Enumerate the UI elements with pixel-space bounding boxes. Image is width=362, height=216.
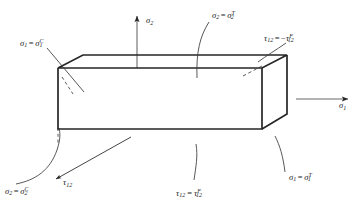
sigma2t-equals: = <box>221 10 226 20</box>
sigma1c-lhs-sub: 1 <box>24 42 27 48</box>
tau12-plain-sub: 12 <box>66 182 72 188</box>
sigma2c-equals: = <box>14 186 19 196</box>
tau12p-lhs-sub: 12 <box>179 192 185 198</box>
sigma-2-subscript: 2 <box>150 20 153 26</box>
sigma1t-rhs-sub: 1 <box>308 176 311 182</box>
sigma2t-rhs-sub: 2 <box>231 14 234 20</box>
axis-group <box>137 16 348 99</box>
sigma2c-rhs-sub: 2 <box>25 190 28 196</box>
prism-front-face <box>58 68 262 129</box>
leader-lines <box>16 22 286 184</box>
sigma1t-equals: = <box>298 172 303 182</box>
sigma-1-axis-label: σ1 <box>339 101 346 111</box>
sigma1c-equals: = <box>29 38 34 48</box>
sigma-1-subscript: 1 <box>343 105 346 111</box>
prism-outline <box>58 55 287 129</box>
tau12p-equals: = <box>187 188 192 198</box>
label-tau12-positive: τ12=τF12 <box>176 188 202 198</box>
tau12n-rhs-sub: 12 <box>288 37 294 43</box>
sigma-2-axis-label: σ2 <box>146 16 153 26</box>
prism-hidden-edges <box>58 66 262 143</box>
label-sigma2-tensile: σ2=σT2 <box>212 10 234 20</box>
tau12p-rhs-sub: 12 <box>196 192 202 198</box>
label-sigma1-tensile: σ1=σT1 <box>289 172 311 182</box>
figure-canvas <box>0 0 362 216</box>
leader-tau12-negative <box>258 43 286 62</box>
label-sigma1-compressive: σ1=σC1 <box>20 38 43 48</box>
leader-sigma2-compressive <box>16 128 60 184</box>
leader-sigma2-tensile <box>197 22 209 78</box>
label-tau12-negative: τ12=−τF12 <box>264 33 294 43</box>
tau12n-equals: = <box>275 33 280 43</box>
leader-tau12-arrow <box>56 137 131 179</box>
label-tau12-plain: τ12 <box>63 178 72 188</box>
leader-sigma1-tensile <box>275 136 285 172</box>
sigma1c-rhs-sub: 1 <box>40 42 43 48</box>
sigma2c-lhs-sub: 2 <box>9 190 12 196</box>
prism-top-face <box>58 55 287 68</box>
tau12n-lhs-sub: 12 <box>267 37 273 43</box>
leader-sigma1-compressive <box>47 48 84 92</box>
hidden-edge-rear-left-diagonal <box>62 77 73 94</box>
leader-tau12-positive <box>194 144 197 180</box>
sigma2t-lhs-sub: 2 <box>216 14 219 20</box>
label-sigma2-compressive: σ2=σC2 <box>5 186 28 196</box>
stress-element-diagram: σ2 σ1 σ1=σC1 σ2=σT2 τ12=−τF12 σ1=σT1 τ12… <box>0 0 362 216</box>
sigma1t-lhs-sub: 1 <box>293 176 296 182</box>
